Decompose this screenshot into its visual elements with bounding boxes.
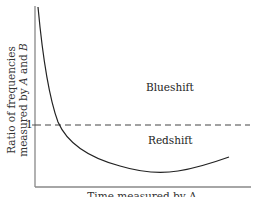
observer-a: A [17,77,29,85]
x-axis-label: Time measured by A [87,190,196,197]
y-axis-label: Ratio of frequencies measured by A and B [5,10,29,190]
redshift-label: Redshift [148,134,192,146]
y-axis-label-line1: Ratio of frequencies [5,10,17,190]
y-axis-label-line2: measured by A and B [17,10,29,190]
frequency-ratio-plot [0,0,255,197]
y-axis-label-prefix: measured by [17,85,29,157]
y-axis-label-and: and [17,51,29,77]
blueshift-label: Blueshift [146,81,194,93]
frequency-ratio-curve [38,7,229,172]
observer-b: B [17,43,29,51]
